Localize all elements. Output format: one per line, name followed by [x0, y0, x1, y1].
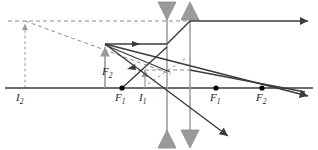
label-f2-right-letter: F [256, 91, 263, 103]
label-f1-right-letter: F [210, 91, 217, 103]
label-f2-right-sub: 2 [263, 97, 267, 106]
label-f2-right: F2 [256, 92, 266, 106]
diverging-lens[interactable] [158, 2, 176, 148]
converging-lens[interactable] [181, 2, 199, 148]
label-f2-left-sub: 2 [109, 71, 113, 80]
ray-to-top-exit [167, 21, 190, 44]
incident-parallel-ray-arrowhead [132, 41, 140, 47]
diverging-lens-top-arrowhead [158, 2, 176, 20]
focal-point-f1-right-dot [213, 85, 218, 90]
dashed-construction-diagonal [25, 21, 171, 74]
construction-lines-group [8, 21, 192, 84]
label-f1-right: F1 [210, 92, 220, 106]
focal-point-f2-right-dot [259, 85, 264, 90]
label-f2-left-letter: F [102, 65, 109, 77]
label-i1-sub: 1 [143, 97, 147, 106]
label-i1: I1 [139, 92, 146, 106]
label-f1-right-sub: 1 [217, 97, 221, 106]
converging-lens-bottom-arrowhead [181, 130, 199, 148]
label-f1-left-sub: 1 [122, 97, 126, 106]
label-i2: I2 [16, 92, 23, 106]
label-f1-left-letter: F [115, 91, 122, 103]
diagram-canvas [0, 0, 318, 150]
ray-leftward-arrowhead [127, 64, 136, 70]
focal-point-f1-left-dot [119, 85, 124, 90]
label-f2-left: F2 [102, 66, 112, 80]
label-f1-left: F1 [115, 92, 125, 106]
converging-lens-top-arrowhead [181, 2, 199, 20]
label-i2-sub: 2 [20, 97, 24, 106]
ray-bundle-group [105, 21, 308, 136]
optics-ray-diagram: I2 F2 F1 I1 F1 F2 [0, 0, 318, 150]
diverging-lens-bottom-arrowhead [158, 130, 176, 148]
